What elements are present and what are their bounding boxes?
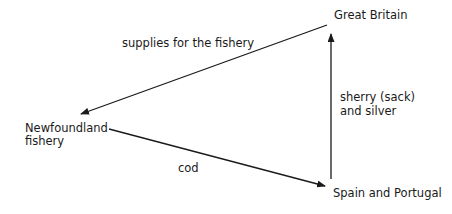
edge-label-supplies: supplies for the fishery xyxy=(122,36,254,50)
arrow-cod xyxy=(109,129,325,186)
edge-label-sherry-line1: sherry (sack) xyxy=(340,90,415,104)
edge-label-sherry-line2: and silver xyxy=(340,104,396,118)
node-great-britain: Great Britain xyxy=(334,8,408,22)
node-newfoundland-line2: fishery xyxy=(25,134,64,148)
node-spain-portugal: Spain and Portugal xyxy=(333,186,442,200)
edge-label-cod: cod xyxy=(178,161,199,175)
trade-diagram: Great Britain supplies for the fishery N… xyxy=(0,0,452,214)
node-newfoundland-line1: Newfoundland xyxy=(25,121,108,135)
